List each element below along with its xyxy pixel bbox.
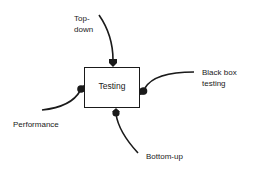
bottom-up-arrow: [112, 108, 138, 153]
black-box-label-line1: Black box: [202, 67, 237, 78]
black-box-label-line2: testing: [202, 78, 226, 89]
performance-label: Performance: [13, 119, 59, 130]
performance-arrow: [42, 85, 85, 110]
top-down-arrow: [99, 15, 117, 67]
diagram-canvas: Testing Top- down Black box testing Perf…: [0, 0, 256, 171]
top-down-label-line1: Top-: [74, 13, 90, 24]
testing-label: Testing: [84, 81, 140, 92]
black-box-arrow: [140, 72, 194, 95]
top-down-label-line2: down: [74, 24, 93, 35]
bottom-up-label: Bottom-up: [146, 151, 183, 162]
